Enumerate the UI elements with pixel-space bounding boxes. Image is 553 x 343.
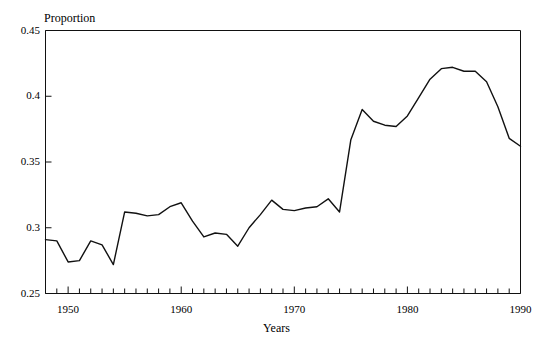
x-tick-label: 1970 [274,304,314,315]
x-tick-label: 1960 [161,304,201,315]
axis-frame [46,31,521,294]
y-tick-label: 0.45 [8,25,40,36]
y-tick-label: 0.35 [8,156,40,167]
x-tick-label: 1990 [501,304,541,315]
line-chart-canvas [0,0,553,343]
proportion-series-line [46,67,521,264]
y-tick-label: 0.25 [8,288,40,299]
x-tick-label: 1950 [48,304,88,315]
x-tick-label: 1980 [387,304,427,315]
x-axis-title: Years [0,322,553,334]
y-tick-label: 0.4 [8,90,40,101]
y-tick-label: 0.3 [8,222,40,233]
chart-figure: Proportion 0.250.30.350.40.45 1950196019… [0,0,553,343]
y-axis-ticks [46,31,52,294]
x-axis-ticks [46,287,521,294]
